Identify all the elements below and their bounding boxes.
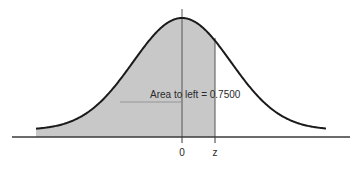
area-annotation: Area to left = 0.7500 — [150, 89, 241, 100]
shaded-area-left-of-z — [36, 18, 215, 137]
tick-label-0: 0 — [179, 147, 185, 158]
normal-distribution-chart: 0 z Area to left = 0.7500 — [0, 0, 359, 170]
tick-label-z: z — [213, 147, 218, 158]
